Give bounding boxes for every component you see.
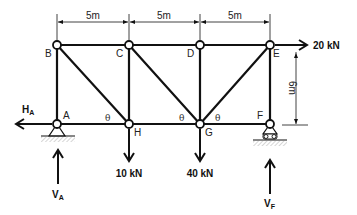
reaction-sub: F — [271, 203, 276, 210]
reaction-label-va: VA — [52, 189, 64, 201]
joint-b — [53, 41, 61, 49]
joint-c — [125, 41, 133, 49]
joint-label-e: E — [273, 48, 280, 59]
joint-label-h: H — [134, 127, 141, 138]
joint-h — [125, 120, 133, 128]
joint-label-d: D — [187, 48, 194, 59]
load-label-10kn: 10 kN — [116, 168, 143, 179]
dim-arrow — [294, 53, 298, 58]
dim-arrow — [264, 20, 269, 24]
reaction-label-vf: VF — [264, 198, 276, 210]
truss-members — [57, 45, 270, 124]
reaction-ha: HA — [16, 104, 52, 129]
dim-label-1: 5m — [86, 10, 100, 21]
dim-arrow — [123, 20, 128, 24]
reaction-va: VA — [52, 150, 64, 201]
angle-theta-g-left: θ — [179, 113, 184, 123]
dim-arrow — [294, 119, 298, 124]
dim-arrow — [201, 20, 206, 24]
joint-f — [266, 120, 274, 128]
load-20kn-e: 20 kN — [275, 40, 340, 51]
dim-height-label: 6m — [287, 81, 298, 95]
dim-label-2: 5m — [157, 10, 171, 21]
joint-label-c: C — [116, 48, 123, 59]
dim-label-3: 5m — [228, 10, 242, 21]
joint-label-f: F — [257, 110, 263, 121]
reaction-vf: VF — [264, 160, 276, 210]
joint-a — [53, 120, 61, 128]
reaction-sub: A — [59, 194, 64, 201]
ground-hatch — [41, 137, 75, 142]
joint-label-b: B — [45, 48, 52, 59]
load-label-20kn: 20 kN — [313, 40, 340, 51]
joint-label-g: G — [205, 127, 213, 138]
dim-arrow — [130, 20, 135, 24]
dim-arrow — [58, 20, 63, 24]
angle-theta-g-right: θ — [215, 113, 220, 123]
joint-d — [196, 41, 204, 49]
angle-theta-h: θ — [105, 113, 110, 123]
joint-g — [196, 120, 204, 128]
joint-label-a: A — [63, 110, 70, 121]
ground-hatch — [253, 141, 287, 146]
load-label-40kn: 40 kN — [187, 168, 214, 179]
dim-arrow — [194, 20, 199, 24]
dimension-top: 5m 5m 5m — [57, 10, 270, 42]
reaction-label-ha: HA — [22, 104, 34, 116]
roller-wheel — [264, 135, 268, 139]
reaction-main: H — [22, 104, 29, 115]
reaction-sub: A — [29, 109, 34, 116]
dimension-height: 6m — [282, 52, 308, 125]
roller-wheel — [272, 135, 276, 139]
truss-diagram: 5m 5m 5m 6m B C D E A H G F θ θ θ — [0, 0, 357, 215]
